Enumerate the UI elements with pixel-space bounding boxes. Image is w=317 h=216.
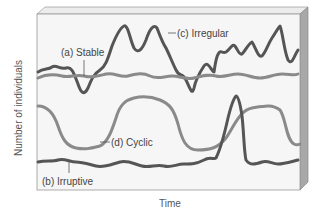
population-dynamics-diagram: (a) Stable (c) Irregular (b) Irruptive (…: [0, 0, 317, 216]
label-irregular: (c) Irregular: [177, 28, 229, 39]
panel-side-bevel: [300, 7, 308, 190]
label-stable: (a) Stable: [61, 47, 105, 58]
x-axis-label: Time: [159, 198, 181, 209]
y-axis-label: Number of individuals: [13, 60, 24, 156]
panel-top-bevel: [37, 7, 308, 14]
label-cyclic: (d) Cyclic: [111, 137, 153, 148]
label-irruptive: (b) Irruptive: [42, 176, 94, 187]
